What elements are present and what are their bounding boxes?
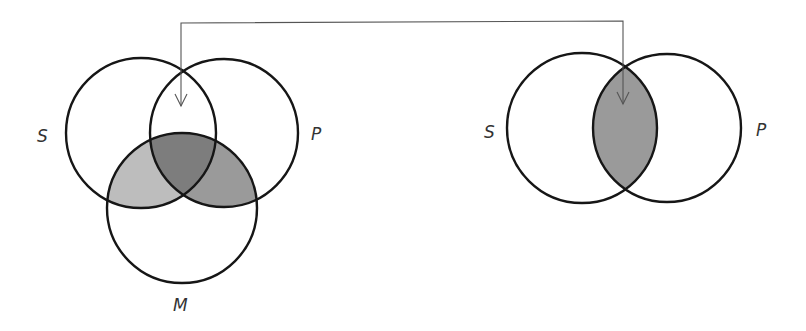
label-p-right: P — [756, 120, 767, 140]
connector-arrow — [175, 21, 629, 106]
label-m: M — [173, 295, 188, 315]
label-p-left: P — [311, 124, 322, 144]
left-venn-three-sets: S P M — [0, 0, 806, 331]
venn-diagram-canvas: S P M S P — [0, 0, 806, 331]
label-s-right: S — [484, 122, 495, 142]
right-venn-two-sets: S P — [484, 53, 767, 203]
label-s-left: S — [37, 126, 48, 146]
